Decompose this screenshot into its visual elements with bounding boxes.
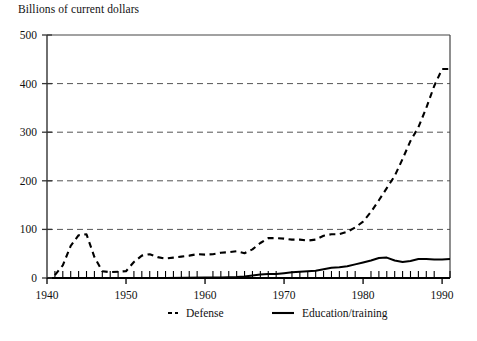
y-tick-label-100: 100 <box>20 223 38 235</box>
chart-figure: Billions of current dollars 010020030040… <box>0 0 477 341</box>
x-tick-label-1990: 1990 <box>431 289 454 301</box>
series-line-defense <box>55 69 450 275</box>
legend-label-education-training: Education/training <box>302 307 388 320</box>
x-axis-tick-labels: 194019501960197019801990 <box>36 289 454 301</box>
x-tick-label-1970: 1970 <box>273 289 296 301</box>
series-line-education-training <box>55 258 450 278</box>
y-tick-label-200: 200 <box>20 175 38 187</box>
gridlines-group <box>47 84 450 230</box>
chart-legend: DefenseEducation/training <box>168 307 388 320</box>
y-tick-label-300: 300 <box>20 126 38 138</box>
data-series-group <box>55 69 450 278</box>
y-tick-label-400: 400 <box>20 78 38 90</box>
chart-plot-area: 0100200300400500 19401950196019701980199… <box>0 0 477 341</box>
y-tick-label-500: 500 <box>20 29 38 41</box>
x-tick-label-1980: 1980 <box>352 289 375 301</box>
y-tick-label-0: 0 <box>31 272 37 284</box>
plot-frame <box>47 35 450 278</box>
x-tick-label-1940: 1940 <box>36 289 59 301</box>
y-axis-tick-labels: 0100200300400500 <box>20 29 38 284</box>
x-tick-label-1960: 1960 <box>194 289 217 301</box>
legend-label-defense: Defense <box>186 307 224 319</box>
x-tick-label-1950: 1950 <box>115 289 138 301</box>
